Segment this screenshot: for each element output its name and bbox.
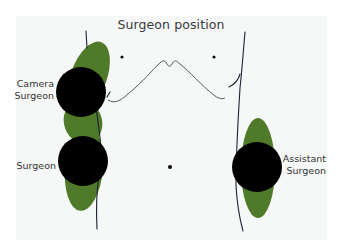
camera-surgeon-label-line2: Surgeon: [14, 90, 54, 102]
assistant-surgeon-label-line2: Surgeon: [282, 165, 326, 177]
right-body-curl: [229, 74, 240, 87]
surgeon-label-text: Surgeon: [14, 160, 56, 172]
costal-margin-curve: [108, 61, 225, 102]
camera-surgeon-label-line1: Camera: [14, 78, 54, 90]
camera-surgeon-marker: [56, 67, 106, 117]
surgeon-marker: [58, 136, 108, 186]
assistant-surgeon-marker: [232, 142, 282, 192]
left-body-tick: [107, 92, 110, 97]
port-dot-right: [212, 55, 215, 58]
port-markers: [120, 55, 215, 169]
assistant-surgeon-label-line1: Assistant: [282, 153, 326, 165]
surgeon-position-diagram: [0, 0, 342, 249]
port-dot-left: [120, 55, 123, 58]
assistant-surgeon-label: Assistant Surgeon: [282, 153, 326, 177]
surgeon-label: Surgeon: [14, 160, 56, 172]
port-dot-center: [168, 165, 172, 169]
right-body-line: [236, 32, 245, 231]
camera-surgeon-label: Camera Surgeon: [14, 78, 54, 102]
